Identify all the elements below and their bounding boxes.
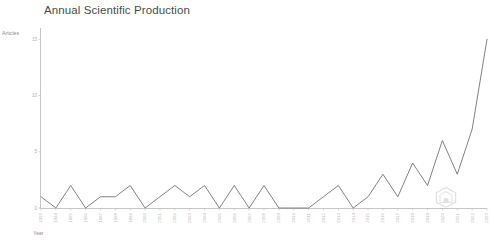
y-axis-ticks: 051015 <box>32 37 41 211</box>
plot-area: 051015 199319941995199619971998199920002… <box>0 0 492 242</box>
x-tick-label: 1997 <box>98 212 103 222</box>
x-tick-label: 1996 <box>83 212 88 222</box>
x-axis: 1993199419951996199719981999200020012002… <box>38 208 489 223</box>
x-tick-label: 2004 <box>202 212 207 222</box>
x-tick-label: 2007 <box>247 212 252 222</box>
chart-container: Annual Scientific Production Articles Ye… <box>0 0 492 242</box>
hexagon-house-logo-icon <box>434 186 458 208</box>
y-axis: 051015 <box>32 28 41 211</box>
y-tick-label: 15 <box>32 37 38 42</box>
x-tick-label: 2020 <box>440 212 445 222</box>
y-tick-label: 0 <box>34 206 37 211</box>
x-tick-label: 1998 <box>113 212 118 222</box>
x-tick-label: 2006 <box>232 212 237 222</box>
x-tick-label: 2002 <box>172 212 177 222</box>
x-tick-label: 2014 <box>351 212 356 222</box>
x-tick-label: 2010 <box>291 212 296 222</box>
x-tick-label: 2017 <box>395 212 400 222</box>
x-tick-label: 2008 <box>261 212 266 222</box>
x-tick-label: 2011 <box>306 212 311 222</box>
x-tick-label: 1999 <box>128 212 133 222</box>
x-tick-label: 1993 <box>38 212 43 222</box>
x-axis-ticks: 1993199419951996199719981999200020012002… <box>38 208 489 223</box>
x-tick-label: 2009 <box>276 212 281 222</box>
x-tick-label: 1995 <box>68 212 73 222</box>
x-tick-label: 2019 <box>425 212 430 222</box>
x-tick-label: 2012 <box>321 212 326 222</box>
x-tick-label: 2018 <box>410 212 415 222</box>
x-tick-label: 2001 <box>157 212 162 222</box>
x-tick-label: 2000 <box>142 212 147 222</box>
y-tick-label: 10 <box>32 93 38 98</box>
x-tick-label: 2005 <box>217 212 222 222</box>
x-tick-label: 1994 <box>53 212 58 222</box>
x-tick-label: 2022 <box>470 212 475 222</box>
x-tick-label: 2023 <box>484 212 489 222</box>
x-tick-label: 2015 <box>365 212 370 222</box>
data-line-articles <box>41 39 487 208</box>
x-tick-label: 2016 <box>380 212 385 222</box>
x-tick-label: 2013 <box>336 212 341 222</box>
x-tick-label: 2003 <box>187 212 192 222</box>
y-tick-label: 5 <box>34 149 37 154</box>
x-tick-label: 2021 <box>455 212 460 222</box>
